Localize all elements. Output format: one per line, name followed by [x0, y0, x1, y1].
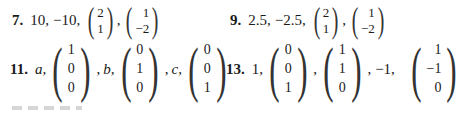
eigenvector: ( 001 ): [183, 38, 231, 100]
left-paren: (: [121, 38, 131, 100]
separator: ,: [165, 61, 169, 78]
right-paren: ): [447, 38, 457, 100]
vector-entry: 2: [97, 6, 104, 19]
eigenvector: ( 21 ): [311, 2, 342, 38]
vector-entry: 1: [339, 43, 346, 57]
eigenvector: ( 110 ): [318, 38, 366, 100]
left-paren: (: [188, 38, 198, 100]
vector-entry: 1: [323, 22, 330, 35]
vector-entry: 1: [339, 62, 346, 76]
vector-entry: 0: [339, 81, 346, 95]
separator: ,: [342, 12, 346, 29]
right-paren: ): [80, 38, 90, 100]
vector-entry: 0: [434, 81, 441, 95]
eigenvalue-label: c,: [172, 61, 182, 78]
problem-number: 9.: [230, 12, 241, 29]
eigenvector: ( 1−2 ): [349, 2, 387, 38]
vector-entry: 0: [204, 62, 211, 76]
separator: ,: [313, 61, 317, 78]
eigenvector: ( 21 ): [85, 2, 116, 38]
left-paren: (: [88, 2, 95, 38]
problem-number: 11.: [10, 61, 28, 78]
vector-entry: 1: [136, 62, 143, 76]
answer-11: 11. a, ( 100 ) , b, ( 010 ) , c, ( 001 ): [10, 38, 232, 100]
eigenvalue-label: a,: [35, 61, 46, 78]
answer-9: 9. 2.5, −2.5, ( 21 ) , ( 1−2 ): [230, 2, 388, 38]
vector-entry: 0: [136, 43, 143, 57]
vector-entry: 0: [68, 62, 75, 76]
left-paren: (: [411, 38, 421, 100]
right-paren: ): [378, 2, 385, 38]
answer-7: 7. 10, −10, ( 21 ) , ( 1−2 ): [12, 2, 162, 38]
vector-entry: 0: [68, 81, 75, 95]
right-paren: ): [106, 2, 113, 38]
right-paren: ): [351, 38, 361, 100]
eigenvector: ( 010 ): [116, 38, 164, 100]
separator: ,: [367, 61, 371, 78]
left-paren: (: [52, 38, 62, 100]
left-paren: (: [352, 2, 359, 38]
vector-entry: 1: [97, 22, 104, 35]
right-paren: ): [297, 38, 307, 100]
vector-entry: −1: [427, 62, 442, 76]
right-paren: ): [152, 2, 159, 38]
problem-number: 13.: [226, 61, 245, 78]
right-paren: ): [148, 38, 158, 100]
eigenvalue: −2.5,: [275, 12, 306, 29]
eigenvalue-label: b,: [103, 61, 114, 78]
eigenvalue: 10,: [30, 12, 49, 29]
eigenvector: ( 100 ): [47, 38, 95, 100]
eigenvalue: −1,: [375, 61, 395, 78]
right-paren: ): [332, 2, 339, 38]
vector-entry: 0: [204, 43, 211, 57]
right-paren: ): [216, 38, 226, 100]
eigenvalue: −10,: [53, 12, 80, 29]
separator: ,: [117, 12, 121, 29]
problem-number: 7.: [12, 12, 23, 29]
left-paren: (: [126, 2, 133, 38]
vector-entry: 0: [136, 81, 143, 95]
eigenvector: ( 1−10 ): [406, 38, 460, 100]
left-paren: (: [323, 38, 333, 100]
clipped-next-line: [12, 106, 82, 110]
vector-entry: 2: [323, 6, 330, 19]
eigenvalue: 1,: [252, 61, 263, 78]
vector-entry: 1: [143, 6, 150, 19]
vector-entry: 0: [285, 43, 292, 57]
answer-13: 13. 1, ( 001 ) , ( 110 ) , −1, ( 1−10 ): [226, 38, 460, 100]
vector-entry: 1: [204, 81, 211, 95]
separator: ,: [97, 61, 101, 78]
vector-entry: 1: [285, 81, 292, 95]
vector-entry: 1: [368, 6, 375, 19]
vector-entry: −2: [135, 22, 149, 35]
vector-entry: −2: [361, 22, 375, 35]
left-paren: (: [269, 38, 279, 100]
left-paren: (: [313, 2, 320, 38]
vector-entry: 0: [285, 62, 292, 76]
vector-entry: 1: [68, 43, 75, 57]
eigenvalue: 2.5,: [248, 12, 271, 29]
eigenvector: ( 001 ): [264, 38, 312, 100]
vector-entry: 1: [434, 43, 441, 57]
eigenvector: ( 1−2 ): [123, 2, 161, 38]
